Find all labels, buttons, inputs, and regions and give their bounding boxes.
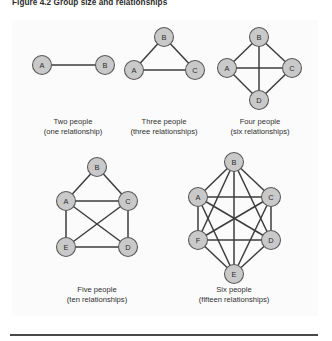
node-label: E [64,243,69,252]
node-B: B [250,28,269,47]
caption-title-four-people: Four people [240,117,281,126]
graph-two-people: AB [33,56,115,75]
node-B: B [225,153,244,172]
node-label: A [64,197,69,206]
figure-diagram-svg: ABBACBACDBACEDBACFDE Two people(one rela… [12,20,318,316]
node-label: A [40,61,45,70]
figure-panel: ABBACBACDBACEDBACFDE Two people(one rela… [12,20,318,316]
node-C: C [262,188,281,207]
node-C: C [186,61,205,80]
node-A: A [57,192,76,211]
graph-three-people: BAC [125,28,205,80]
caption-title-six-people: Six people [216,285,251,294]
figure-title: Figure 4.2 Group size and relationships [12,0,167,7]
node-label: C [289,64,295,73]
node-B: B [155,28,174,47]
node-label: C [268,193,274,202]
node-E: E [57,238,76,257]
node-label: D [256,96,261,105]
node-F: F [189,231,208,250]
caption-sub-five-people: (ten relationships) [67,295,128,304]
node-label: B [257,33,262,42]
caption-sub-three-people: (three relationships) [130,127,198,136]
node-label: D [125,243,130,252]
caption-layer: Two people(one relationship)Three people… [44,117,290,304]
node-C: C [119,192,138,211]
node-A: A [218,59,237,78]
node-B: B [88,158,107,177]
caption-title-two-people: Two people [54,117,93,126]
footer-rule [10,334,318,336]
node-label: A [132,66,137,75]
graph-five-people: BACED [57,158,138,257]
graph-four-people: BACD [218,28,302,110]
caption-sub-four-people: (six relationships) [230,127,290,136]
node-D: D [119,238,138,257]
graph-six-people: BACFDE [189,153,281,284]
node-label: B [103,61,108,70]
node-E: E [225,265,244,284]
node-label: E [232,270,237,279]
node-label: F [196,236,201,245]
node-label: C [192,66,198,75]
node-D: D [262,231,281,250]
node-D: D [250,91,269,110]
diagram-layer: ABBACBACDBACEDBACFDE [33,28,302,284]
node-label: B [162,33,167,42]
node-label: B [232,158,237,167]
node-A: A [189,188,208,207]
node-label: A [196,193,201,202]
caption-title-three-people: Three people [142,117,187,126]
node-A: A [125,61,144,80]
node-label: D [268,236,273,245]
node-label: A [225,64,230,73]
caption-sub-six-people: (fifteen relationships) [199,295,270,304]
caption-title-five-people: Five people [77,285,116,294]
node-label: B [95,163,100,172]
node-label: C [125,197,131,206]
caption-sub-two-people: (one relationship) [44,127,103,136]
node-C: C [283,59,302,78]
node-A: A [33,56,52,75]
node-B: B [96,56,115,75]
